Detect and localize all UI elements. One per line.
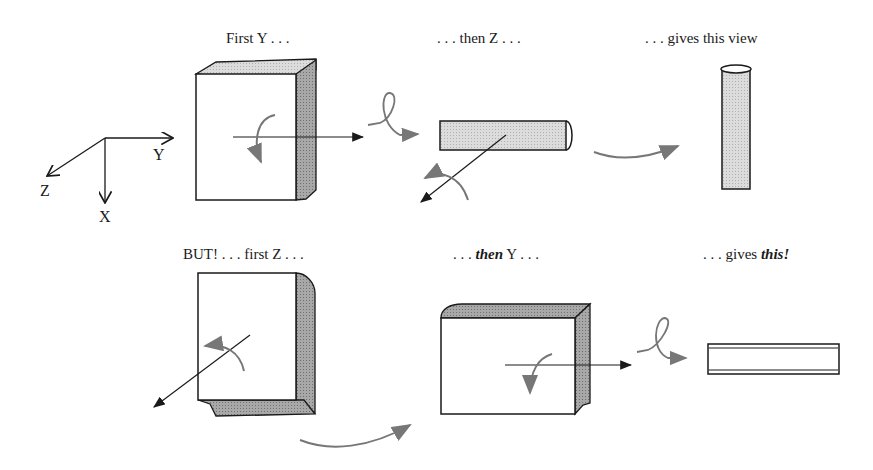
caption-gives-this: . . . gives this! bbox=[703, 246, 789, 263]
caption-prefix: . . . bbox=[453, 246, 476, 262]
result-vertical-bar bbox=[721, 65, 751, 189]
caption-gives-view: . . . gives this view bbox=[645, 30, 758, 47]
caption-emphasis: then bbox=[476, 246, 504, 262]
caption-emphasis: this! bbox=[761, 246, 789, 262]
caption-suffix: Y . . . bbox=[503, 246, 539, 262]
caption-but-first-z: BUT! . . . first Z . . . bbox=[183, 246, 304, 263]
book-edge-horizontal bbox=[421, 121, 572, 202]
rotation-order-diagram bbox=[0, 0, 873, 470]
result-flat-bar bbox=[708, 344, 839, 374]
caption-then-z: . . . then Z . . . bbox=[437, 30, 521, 47]
book-on-side bbox=[441, 304, 631, 414]
y-axis-label: Y bbox=[153, 146, 165, 164]
x-axis-label: X bbox=[99, 208, 111, 226]
book-upright bbox=[196, 59, 363, 200]
book-rotated-z bbox=[154, 273, 315, 416]
caption-then-y: . . . then Y . . . bbox=[453, 246, 539, 263]
caption-prefix: . . . gives bbox=[703, 246, 761, 262]
caption-first-y: First Y . . . bbox=[226, 30, 289, 47]
z-axis-label: Z bbox=[40, 182, 50, 200]
